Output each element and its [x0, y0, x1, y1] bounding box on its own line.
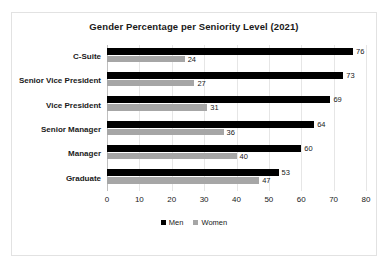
bar-women[interactable]: [107, 153, 237, 160]
x-tick-label: 10: [135, 195, 144, 204]
legend-item-women[interactable]: Women: [193, 218, 227, 227]
data-label-men: 64: [317, 121, 325, 129]
x-tick-label: 80: [362, 195, 371, 204]
category-axis: C-SuiteSenior Vice PresidentVice Preside…: [12, 45, 105, 191]
bar-men[interactable]: [107, 121, 314, 128]
x-tick-label: 40: [232, 195, 241, 204]
data-label-women: 27: [197, 80, 205, 88]
x-tick-label: 70: [329, 195, 338, 204]
category-label: Senior Manager: [41, 118, 101, 142]
data-label-men: 73: [346, 72, 354, 80]
data-label-women: 24: [188, 56, 196, 64]
bar-group: 7624: [107, 45, 366, 69]
category-label: C-Suite: [73, 45, 101, 69]
value-axis: 01020304050607080: [107, 195, 366, 209]
bar-women[interactable]: [107, 80, 194, 87]
bar-men[interactable]: [107, 72, 343, 79]
data-label-men: 60: [304, 145, 312, 153]
bar-men[interactable]: [107, 48, 353, 55]
legend-item-men[interactable]: Men: [161, 218, 184, 227]
chart-title: Gender Percentage per Seniority Level (2…: [12, 21, 376, 32]
bar-group: 6040: [107, 142, 366, 166]
chart-container: Gender Percentage per Seniority Level (2…: [11, 12, 377, 256]
category-label: Senior Vice President: [19, 69, 101, 93]
category-label: Graduate: [66, 167, 101, 191]
plot-area: 762473276931643660405347: [107, 45, 366, 191]
data-label-women: 31: [210, 104, 218, 112]
bar-women[interactable]: [107, 56, 185, 63]
x-tick-label: 50: [264, 195, 273, 204]
bar-women[interactable]: [107, 104, 207, 111]
bar-group: 7327: [107, 69, 366, 93]
bar-women[interactable]: [107, 129, 224, 136]
x-tick-label: 0: [105, 195, 109, 204]
x-tick-label: 20: [167, 195, 176, 204]
bar-group: 5347: [107, 167, 366, 191]
legend-swatch-women: [193, 220, 198, 225]
legend-label-men: Men: [169, 218, 184, 227]
x-tick-label: 30: [200, 195, 209, 204]
x-tick-label: 60: [297, 195, 306, 204]
bar-women[interactable]: [107, 177, 259, 184]
gridline: [366, 45, 367, 191]
data-label-men: 53: [282, 169, 290, 177]
category-label: Manager: [68, 142, 101, 166]
bar-men[interactable]: [107, 96, 330, 103]
legend-swatch-men: [161, 220, 166, 225]
data-label-women: 36: [227, 129, 235, 137]
data-label-women: 40: [240, 153, 248, 161]
category-label: Vice President: [46, 94, 101, 118]
bar-group: 6931: [107, 94, 366, 118]
data-label-men: 76: [356, 48, 364, 56]
chart-legend: MenWomen: [12, 218, 376, 227]
bar-group: 6436: [107, 118, 366, 142]
data-label-men: 69: [333, 96, 341, 104]
legend-label-women: Women: [201, 218, 227, 227]
bar-men[interactable]: [107, 169, 279, 176]
data-label-women: 47: [262, 177, 270, 185]
bar-men[interactable]: [107, 145, 301, 152]
